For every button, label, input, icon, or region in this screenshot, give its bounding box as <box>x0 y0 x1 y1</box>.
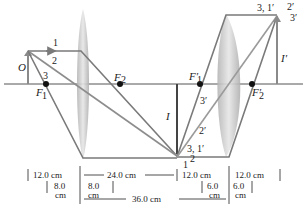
label-f2-prime-sub: 2 <box>259 90 264 101</box>
dim-lens2-to-final: 12.0 cm <box>235 170 264 180</box>
ray-2 <box>28 51 177 156</box>
label-ray-3p-mid: 3′ <box>200 95 207 106</box>
dim-f1-right-unit: cm <box>88 190 99 200</box>
label-ray-1: 1 <box>53 37 58 48</box>
label-ray-3-1p-top: 3, 1′ <box>257 2 274 13</box>
dim-obj-to-lens1: 12.0 cm <box>33 170 62 180</box>
label-ray-3: 3 <box>43 70 48 81</box>
dim-f1-left-unit: cm <box>55 190 66 200</box>
lens-1 <box>77 9 89 160</box>
dim-f2-right-unit: cm <box>235 190 246 200</box>
dim-f2-left-unit: cm <box>209 190 220 200</box>
focal-point-f1 <box>43 81 49 87</box>
label-ray-2p: 2′ <box>199 125 206 136</box>
label-final-image: I′ <box>280 52 288 64</box>
label-ray-3p-top: 3′ <box>290 12 297 23</box>
ray-diagram: O I I′ F 1 F 2 F′ 1 F′ 2 1 2 3 3, 1′ 2 1… <box>0 0 307 212</box>
label-f1-sub: 1 <box>42 90 47 101</box>
label-ray-2: 2 <box>52 55 57 66</box>
label-f2: F <box>113 71 121 83</box>
label-f1-prime-sub: 1 <box>197 74 202 85</box>
final-image-arrowhead <box>273 15 281 22</box>
dim-lens-separation: 36.0 cm <box>132 194 161 204</box>
label-f2-sub: 2 <box>121 74 126 85</box>
label-intermediate-image: I <box>165 110 171 122</box>
label-ray-1-bottom: 1 <box>183 159 188 170</box>
dim-image-to-lens2: 12.0 cm <box>182 170 211 180</box>
label-ray-2p-top: 2′ <box>287 1 294 12</box>
label-ray-2-bottom: 2 <box>190 153 195 164</box>
dim-lens1-to-image: 24.0 cm <box>107 170 136 180</box>
label-object: O <box>18 61 26 73</box>
